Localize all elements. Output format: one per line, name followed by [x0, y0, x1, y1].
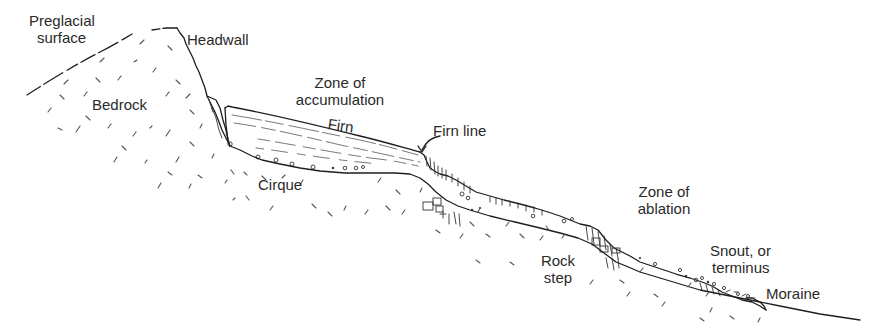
label-zone-of-accumulation: Zone of accumulation [282, 74, 398, 108]
label-preglacial-surface: Preglacial surface [29, 12, 95, 46]
label-snout-terminus: Snout, or terminus [710, 242, 771, 276]
label-ablation-line2: ablation [628, 200, 700, 217]
label-ablation-line1: Zone of [628, 183, 700, 200]
plucked-blocks [423, 198, 620, 270]
label-snout-line2: terminus [710, 259, 771, 276]
label-preglacial-line2: surface [29, 29, 95, 46]
label-preglacial-line1: Preglacial [29, 12, 95, 29]
label-accumulation-line2: accumulation [282, 91, 398, 108]
label-moraine: Moraine [766, 285, 820, 302]
label-rock-step-line1: Rock [534, 252, 582, 269]
label-snout-line1: Snout, or [710, 242, 771, 259]
label-rock-step-line2: step [534, 269, 582, 286]
label-bedrock: Bedrock [92, 96, 147, 113]
label-firn-line: Firn line [433, 122, 486, 139]
label-firn: Firn [327, 115, 355, 135]
label-zone-of-ablation: Zone of ablation [628, 183, 700, 217]
moraine-deposit [726, 290, 766, 310]
ice-debris [256, 155, 750, 298]
label-rock-step: Rock step [534, 252, 582, 286]
label-accumulation-line1: Zone of [282, 74, 398, 91]
label-headwall: Headwall [187, 31, 249, 48]
label-cirque: Cirque [258, 176, 302, 193]
bedrock-hatching [48, 40, 760, 322]
firn-layers [232, 115, 420, 166]
crevasses-lower [586, 226, 720, 296]
glacier-cross-section-diagram [0, 0, 877, 335]
